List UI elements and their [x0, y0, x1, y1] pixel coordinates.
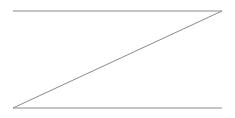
figure-canvas: [0, 0, 235, 118]
line-drawing-svg: [0, 0, 235, 118]
